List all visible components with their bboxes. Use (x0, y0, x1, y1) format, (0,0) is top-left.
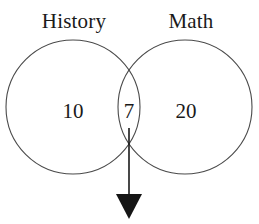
left-set-label-history: History (42, 9, 107, 33)
venn-diagram-figure: History Math 10 7 20 (0, 0, 259, 224)
left-only-count: 10 (63, 99, 84, 123)
right-only-count: 20 (176, 99, 197, 123)
intersection-count: 7 (124, 99, 135, 123)
venn-diagram-canvas: History Math 10 7 20 (0, 0, 259, 224)
right-set-label-math: Math (168, 9, 213, 33)
